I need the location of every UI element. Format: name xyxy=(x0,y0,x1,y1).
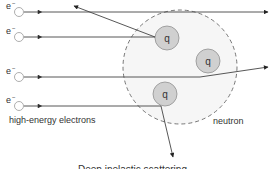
electron-4: e − xyxy=(6,94,24,111)
electrons-caption: high-energy electrons xyxy=(9,115,96,125)
svg-text:q: q xyxy=(205,56,211,67)
quark-2: q xyxy=(196,49,220,73)
svg-text:e: e xyxy=(6,95,11,105)
bottom-caption: Deep inelastic scattering xyxy=(78,164,187,169)
svg-text:−: − xyxy=(12,94,16,100)
scattering-diagram: q q q e − e − e − e xyxy=(0,0,273,169)
svg-text:e: e xyxy=(6,66,11,76)
neutron-caption: neutron xyxy=(213,116,244,126)
electron-1: e − xyxy=(6,0,24,17)
neutron-boundary xyxy=(123,10,237,124)
svg-text:−: − xyxy=(12,25,16,31)
svg-text:q: q xyxy=(164,33,170,44)
electron-2: e − xyxy=(6,25,24,42)
electron-3: e − xyxy=(6,65,24,82)
quark-3: q xyxy=(153,82,177,106)
svg-text:−: − xyxy=(12,65,16,71)
svg-text:q: q xyxy=(162,89,168,100)
svg-text:e: e xyxy=(6,26,11,36)
svg-text:e: e xyxy=(6,1,11,11)
quark-1: q xyxy=(155,26,179,50)
svg-text:−: − xyxy=(12,0,16,6)
